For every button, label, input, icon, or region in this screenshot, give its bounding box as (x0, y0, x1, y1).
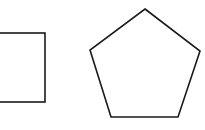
shapes-canvas (0, 0, 205, 130)
square-shape (0, 33, 45, 102)
pentagon-shape (90, 9, 200, 117)
